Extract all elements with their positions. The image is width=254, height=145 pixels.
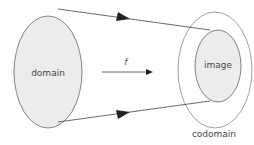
- function-label: f: [125, 58, 128, 67]
- codomain-label: codomain: [192, 129, 236, 139]
- function-arrowhead: [146, 69, 153, 75]
- image-label: image: [204, 60, 232, 70]
- bottom-mapping-line: [58, 101, 210, 122]
- bottom-arrowhead: [116, 110, 130, 119]
- top-arrowhead: [116, 12, 130, 21]
- domain-label: domain: [31, 68, 65, 78]
- top-mapping-line: [58, 9, 210, 30]
